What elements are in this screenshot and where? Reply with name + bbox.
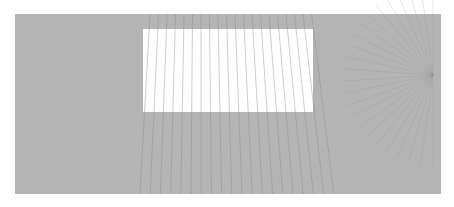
converging-lines: [0, 0, 454, 207]
abstract-artwork: [0, 0, 454, 207]
